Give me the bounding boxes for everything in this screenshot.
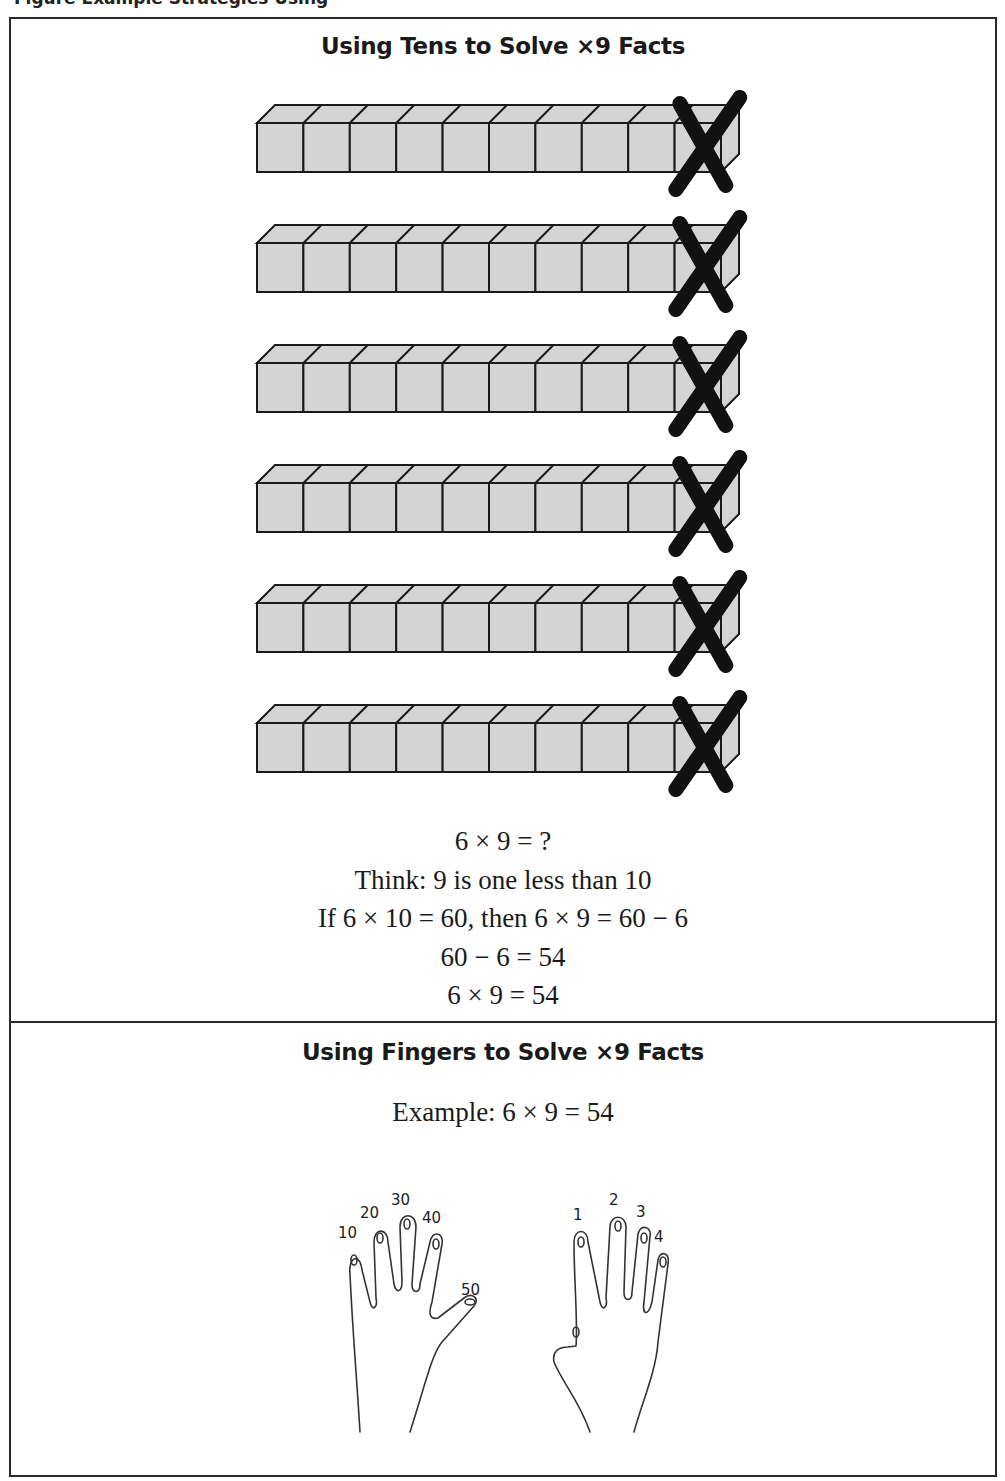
unit-cube: [350, 363, 396, 412]
finger-label: 50: [461, 1281, 480, 1299]
unit-cube: [303, 123, 349, 172]
unit-cube: [257, 123, 303, 172]
hands-diagram: 10 20 30 40 50 1 2 3 4: [11, 1023, 997, 1481]
unit-cube: [628, 123, 674, 172]
unit-cube: [628, 363, 674, 412]
unit-cube: [489, 603, 535, 652]
unit-cube: [489, 483, 535, 532]
figure-frame: Using Tens to Solve ×9 Facts 6 × 9 = ? T…: [9, 17, 997, 1477]
unit-cube: [535, 243, 581, 292]
finger-label: 10: [338, 1224, 357, 1242]
unit-cube: [582, 243, 628, 292]
ten-rod: [257, 698, 740, 790]
unit-cube: [443, 723, 489, 772]
unit-cube: [257, 483, 303, 532]
ten-rod: [257, 338, 740, 430]
unit-cube: [582, 123, 628, 172]
unit-cube: [257, 243, 303, 292]
right-hand-icon: [554, 1217, 669, 1432]
unit-cube: [396, 603, 442, 652]
finger-label: 3: [636, 1203, 646, 1221]
left-hand-icon: [350, 1216, 476, 1432]
unit-cube: [535, 603, 581, 652]
equation-line: 6 × 9 = 54: [11, 976, 995, 1015]
unit-cube: [443, 243, 489, 292]
unit-cube: [396, 483, 442, 532]
unit-cube: [443, 483, 489, 532]
finger-label: 30: [391, 1191, 410, 1209]
unit-cube: [443, 603, 489, 652]
unit-cube: [396, 243, 442, 292]
ten-rod: [257, 218, 740, 310]
finger-label: 1: [573, 1206, 583, 1224]
equation-line: If 6 × 10 = 60, then 6 × 9 = 60 − 6: [11, 899, 995, 938]
unit-cube: [303, 723, 349, 772]
unit-cube: [396, 363, 442, 412]
ten-rod: [257, 98, 740, 190]
unit-cube: [535, 723, 581, 772]
ten-rod: [257, 458, 740, 550]
finger-label: 4: [654, 1228, 664, 1246]
unit-cube: [350, 243, 396, 292]
unit-cube: [303, 483, 349, 532]
unit-cube: [443, 363, 489, 412]
fingers-section: Using Fingers to Solve ×9 Facts Example:…: [11, 1023, 995, 1481]
unit-cube: [350, 603, 396, 652]
unit-cube: [489, 363, 535, 412]
unit-cube: [257, 363, 303, 412]
unit-cube: [303, 603, 349, 652]
unit-cube: [628, 723, 674, 772]
unit-cube: [582, 603, 628, 652]
unit-cube: [257, 603, 303, 652]
equation-block: 6 × 9 = ? Think: 9 is one less than 10 I…: [11, 822, 995, 1015]
finger-label: 20: [360, 1204, 379, 1222]
unit-cube: [489, 123, 535, 172]
unit-cube: [628, 243, 674, 292]
ten-rod: [257, 578, 740, 670]
unit-cube: [535, 123, 581, 172]
unit-cube: [396, 723, 442, 772]
unit-cube: [303, 243, 349, 292]
finger-label: 2: [609, 1191, 619, 1209]
equation-line: 60 − 6 = 54: [11, 938, 995, 977]
unit-cube: [535, 363, 581, 412]
unit-cube: [350, 123, 396, 172]
unit-cube: [582, 363, 628, 412]
unit-cube: [489, 723, 535, 772]
unit-cube: [582, 723, 628, 772]
unit-cube: [257, 723, 303, 772]
unit-cube: [628, 483, 674, 532]
equation-line: 6 × 9 = ?: [11, 822, 995, 861]
unit-cube: [350, 723, 396, 772]
equation-line: Think: 9 is one less than 10: [11, 861, 995, 900]
unit-cube: [535, 483, 581, 532]
unit-cube: [582, 483, 628, 532]
unit-cube: [303, 363, 349, 412]
unit-cube: [396, 123, 442, 172]
unit-cube: [350, 483, 396, 532]
finger-label: 40: [422, 1209, 441, 1227]
unit-cube: [443, 123, 489, 172]
ten-rods-diagram: [11, 19, 997, 819]
unit-cube: [489, 243, 535, 292]
figure-caption: Figure Example Strategies Using: [14, 0, 328, 8]
tens-section: Using Tens to Solve ×9 Facts 6 × 9 = ? T…: [11, 19, 995, 1023]
unit-cube: [628, 603, 674, 652]
